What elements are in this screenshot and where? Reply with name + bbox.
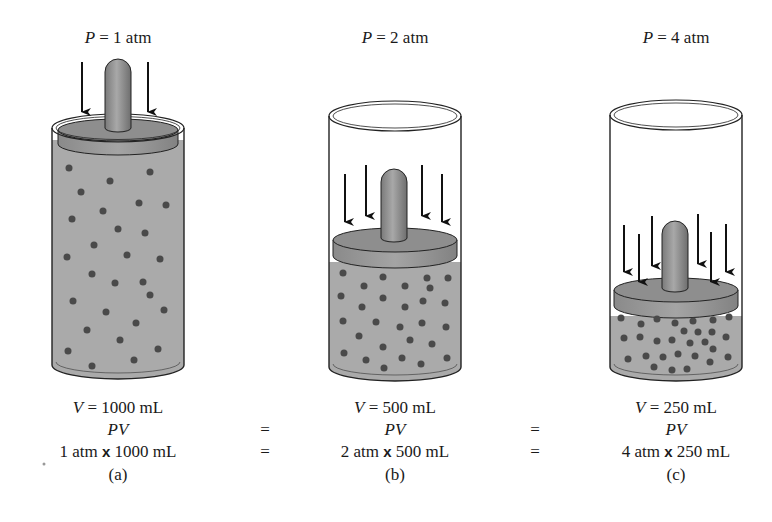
pressure-label-c: P = 4 atm [643, 28, 710, 48]
pressure-label-a: P = 1 atm [85, 28, 152, 48]
piston-rod-c [662, 221, 688, 292]
caption-c: (c) [667, 465, 686, 485]
cylinder-b [329, 101, 461, 381]
piston-rod-a [105, 59, 131, 132]
pv-label-a: PV [108, 420, 129, 440]
speckle [43, 463, 46, 466]
pv-label-b: PV [385, 420, 406, 440]
product-label-b: 2 atm x 500 mL [341, 442, 449, 462]
caption-b: (b) [385, 465, 405, 485]
piston-rod-b [381, 169, 407, 242]
volume-label-c: V = 250 mL [635, 398, 717, 418]
equals-sign-product-ab: = [260, 442, 270, 462]
product-label-c: 4 atm x 250 mL [622, 442, 730, 462]
volume-label-a: V = 1000 mL [73, 398, 163, 418]
pv-label-c: PV [666, 420, 687, 440]
caption-a: (a) [109, 465, 128, 485]
product-label-a: 1 atm x 1000 mL [60, 442, 177, 462]
pressure-label-b: P = 2 atm [362, 28, 429, 48]
equals-sign-pv-bc: = [530, 420, 540, 440]
equals-sign-product-bc: = [530, 442, 540, 462]
gas-volume-b [329, 262, 461, 381]
equals-sign-pv-ab: = [260, 420, 270, 440]
cylinder-a [52, 59, 184, 379]
cylinder-c [610, 100, 742, 381]
gas-volume-a [52, 140, 184, 379]
volume-label-b: V = 500 mL [354, 398, 436, 418]
